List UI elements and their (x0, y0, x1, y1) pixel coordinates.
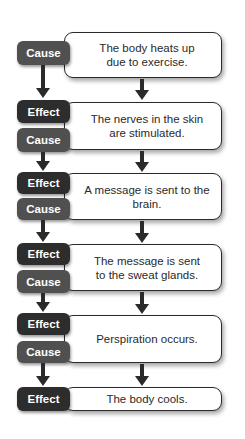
arrow-right-3-icon (135, 221, 149, 244)
step-5-box: Perspiration occurs. (64, 315, 222, 363)
step-6-effect-badge: Effect (17, 387, 70, 411)
arrow-left-1-icon (36, 65, 50, 100)
step-6-box: The body cools. (64, 387, 222, 411)
step-3-box: A message is sent to the brain. (64, 173, 222, 220)
step-5-cause-badge: Cause (17, 341, 70, 363)
step-2-effect-badge: Effect (17, 100, 70, 123)
step-6-text: The body cools. (106, 392, 187, 406)
step-3-line-1: A message is sent to the brain. (73, 183, 221, 211)
step-1-box: The body heats up due to exercise. (64, 32, 222, 78)
arrow-left-2-icon (36, 152, 50, 172)
arrow-right-4-icon (135, 292, 149, 315)
step-3-text: A message is sent to the brain. (73, 183, 221, 211)
arrow-right-2-icon (135, 151, 149, 173)
step-4-text: The message is sent to the sweat glands. (94, 254, 200, 282)
arrow-right-5-icon (135, 364, 149, 387)
step-4-cause-badge: Cause (17, 270, 70, 293)
step-5-line-1: Perspiration occurs. (96, 332, 198, 346)
arrow-left-3-icon (36, 220, 50, 243)
step-2-line-2: are stimulated. (91, 126, 204, 140)
arrow-right-1-icon (135, 79, 149, 101)
step-5-effect-badge: Effect (17, 313, 70, 335)
step-4-line-2: to the sweat glands. (94, 268, 200, 282)
step-1-line-2: due to exercise. (99, 55, 194, 69)
arrow-left-4-icon (36, 293, 50, 313)
step-3-effect-badge: Effect (17, 172, 70, 194)
step-2-line-1: The nerves in the skin (91, 112, 204, 126)
step-1-text: The body heats up due to exercise. (99, 41, 194, 69)
step-2-text: The nerves in the skin are stimulated. (91, 112, 204, 140)
step-2-cause-badge: Cause (17, 128, 70, 152)
step-4-effect-badge: Effect (17, 243, 70, 265)
step-5-text: Perspiration occurs. (96, 332, 198, 346)
step-4-box: The message is sent to the sweat glands. (64, 244, 222, 291)
step-6-line-1: The body cools. (106, 392, 187, 406)
step-1-line-1: The body heats up (99, 41, 194, 55)
step-4-line-1: The message is sent (94, 254, 200, 268)
step-3-cause-badge: Cause (17, 198, 70, 220)
arrow-left-5-icon (36, 363, 50, 387)
step-2-box: The nerves in the skin are stimulated. (64, 102, 222, 150)
step-1-cause-badge: Cause (17, 41, 70, 65)
